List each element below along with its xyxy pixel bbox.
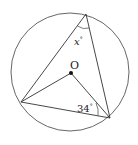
radius-to-left [21, 73, 71, 102]
chord-top-left [21, 14, 86, 102]
circle-diagram: O x° 34° [0, 0, 138, 145]
center-label: O [70, 59, 79, 72]
angle-arc-right [96, 103, 98, 116]
angle-label-x: x° [74, 35, 83, 47]
angle-label-34: 34° [77, 102, 93, 114]
angle-arc-top [78, 26, 90, 29]
